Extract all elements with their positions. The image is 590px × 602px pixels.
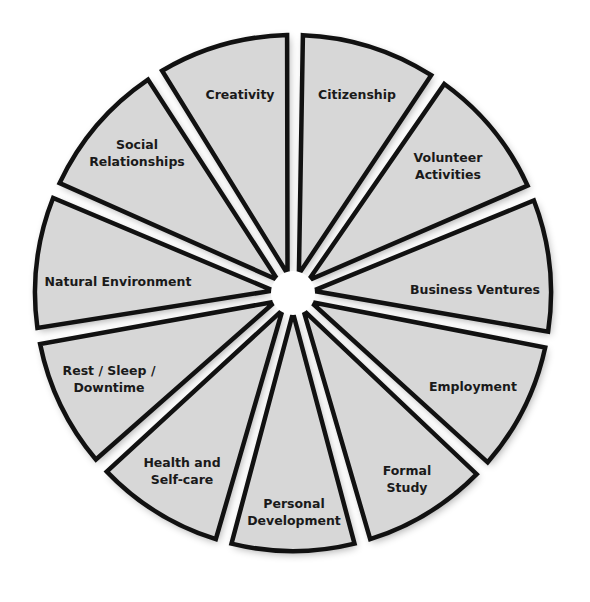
center-hub (271, 271, 315, 315)
segment-label: Natural Environment (45, 274, 192, 289)
life-balance-wheel: CreativityCitizenshipVolunteerActivities… (0, 0, 590, 602)
segment-label: Creativity (205, 87, 274, 102)
segment-label: Citizenship (318, 87, 396, 102)
segment-label: Business Ventures (410, 282, 540, 297)
segment-label: Employment (429, 379, 517, 394)
